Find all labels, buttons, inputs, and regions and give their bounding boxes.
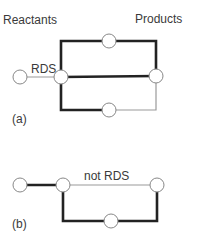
node-end (150, 178, 164, 192)
node-reactant (13, 70, 27, 84)
panel-a-label: (a) (12, 113, 27, 125)
node-start (13, 178, 27, 192)
reactants-label: Reactants (3, 14, 57, 26)
edge-middle-path (61, 76, 156, 77)
not-rds-label: not RDS (84, 170, 129, 182)
diagram-b (13, 178, 164, 228)
node-product (149, 69, 163, 83)
node-branch (56, 178, 70, 192)
node-bottom (102, 103, 116, 117)
panel-b-label: (b) (12, 218, 27, 230)
node-bottom (104, 214, 118, 228)
node-top (102, 34, 116, 48)
rds-label: RDS (31, 63, 56, 75)
edge-bottom-left (61, 77, 109, 110)
edge-bottom-right (109, 76, 156, 110)
products-label: Products (135, 13, 182, 25)
reaction-network-diagram (0, 0, 197, 244)
